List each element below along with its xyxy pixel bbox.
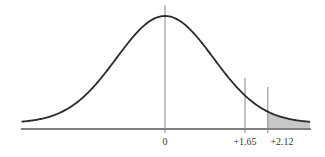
tick-label-1-65: +1.65 (233, 136, 256, 147)
tick-label-zero: 0 (163, 136, 168, 147)
tick-label-2-12: +2.12 (270, 136, 293, 147)
normal-curve (21, 16, 310, 122)
normal-distribution-chart (0, 0, 325, 157)
